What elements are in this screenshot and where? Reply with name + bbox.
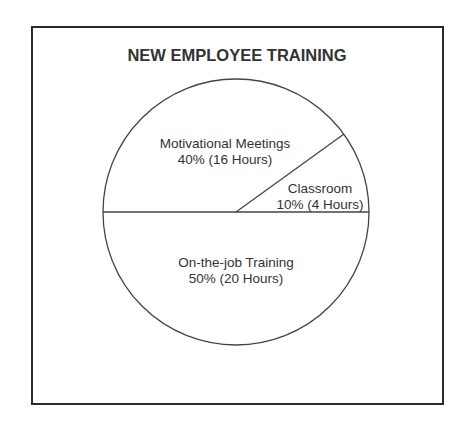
pie-chart: [0, 0, 474, 427]
slice-value: 40% (16 Hours): [140, 152, 310, 168]
slice-name: Motivational Meetings: [140, 136, 310, 152]
slice-name: On-the-job Training: [156, 255, 316, 271]
slice-name: Classroom: [270, 181, 370, 197]
slice-label-motivational: Motivational Meetings 40% (16 Hours): [140, 136, 310, 168]
slice-value: 50% (20 Hours): [156, 271, 316, 287]
slice-label-classroom: Classroom 10% (4 Hours): [270, 181, 370, 213]
slice-value: 10% (4 Hours): [270, 197, 370, 213]
slice-label-on-the-job: On-the-job Training 50% (20 Hours): [156, 255, 316, 287]
